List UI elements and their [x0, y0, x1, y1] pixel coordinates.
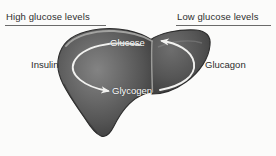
liver-illustration	[0, 0, 276, 156]
label-glucose: Glucose	[110, 38, 145, 48]
label-insulin: Insulin	[31, 60, 58, 70]
label-glycogen: Glycogen	[112, 86, 152, 96]
liver-glucose-cycle-figure: High glucose levels Low glucose levels	[0, 0, 276, 156]
label-glucagon: Glucagon	[205, 60, 246, 70]
